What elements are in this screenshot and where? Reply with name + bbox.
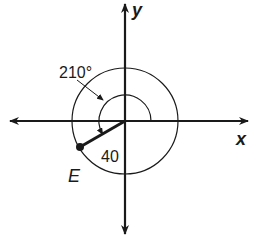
x-axis-label: x <box>235 129 247 149</box>
point-e <box>76 143 84 151</box>
angle-pointer <box>77 80 103 100</box>
point-label: E <box>68 166 81 186</box>
unit-circle-diagram: 210° 40 E x y <box>0 0 255 237</box>
angle-label: 210° <box>59 64 92 81</box>
y-axis-label: y <box>131 0 143 20</box>
radius-label: 40 <box>101 148 119 165</box>
terminal-side <box>80 121 125 147</box>
